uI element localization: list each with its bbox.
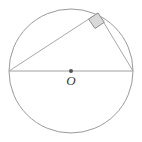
geometry-canvas [0, 0, 142, 142]
right-angle-square-icon [89, 13, 105, 29]
geometry-figure: O [0, 0, 142, 142]
long-leg-segment [9, 13, 98, 71]
center-point-label: O [66, 74, 75, 87]
